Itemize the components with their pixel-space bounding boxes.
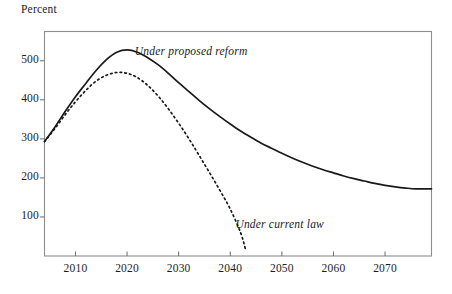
percent-of-taxable-payroll-chart: Percent 100200300400500 2010202020302040… [0,0,452,294]
y-tick-label: 100 [5,209,39,221]
y-tick-label: 300 [5,131,39,143]
y-tick-label: 200 [5,170,39,182]
x-tick-label: 2050 [259,262,305,274]
x-axis-tick-marks [75,252,385,257]
x-tick-label: 2070 [362,262,408,274]
series-line-proposed-reform [45,50,432,189]
y-axis-tick-marks [40,61,45,217]
x-tick-label: 2040 [207,262,253,274]
x-tick-label: 2010 [52,262,98,274]
x-tick-label: 2060 [310,262,356,274]
x-tick-label: 2030 [156,262,202,274]
y-tick-label: 400 [5,92,39,104]
y-tick-label: 500 [5,53,39,65]
annotation-current-law: Under current law [235,218,324,230]
x-tick-label: 2020 [104,262,150,274]
annotation-proposed-reform: Under proposed reform [135,45,248,57]
